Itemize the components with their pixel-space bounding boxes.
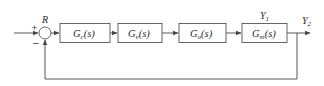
block-label-arg: (s) xyxy=(265,28,277,40)
signal-y2-label: Y2 xyxy=(302,15,312,28)
block-label-arg: (s) xyxy=(139,28,151,40)
process-block: Go(s) xyxy=(179,24,226,43)
block-diagram: R + − Gc(s) Gv(s) Go(s) Y1 Gm(s) Y2 xyxy=(0,0,324,86)
controller-block: Gc(s) xyxy=(60,24,110,43)
summing-junction xyxy=(39,27,51,39)
plus-sign: + xyxy=(31,23,38,32)
reference-label: R xyxy=(41,14,48,25)
measurement-block: Gm(s) xyxy=(242,24,287,43)
valve-block: Gv(s) xyxy=(118,24,162,43)
signal-y1-label: Y1 xyxy=(260,10,269,23)
block-label-arg: (s) xyxy=(84,28,96,40)
minus-sign: − xyxy=(32,38,40,48)
block-label-arg: (s) xyxy=(201,28,213,40)
